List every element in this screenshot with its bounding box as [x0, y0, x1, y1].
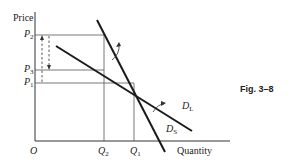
p1-sub: 1	[30, 81, 34, 89]
p1-label: P1	[24, 77, 34, 89]
y-axis-label: Price	[13, 13, 34, 23]
origin-label: O	[30, 146, 37, 156]
p2-label: P2	[24, 29, 34, 41]
curve-dl	[56, 46, 192, 131]
demand-diagram	[0, 0, 297, 166]
arrowhead-up-icon	[40, 35, 44, 40]
p2-sub: 2	[30, 33, 34, 41]
arrowhead-down-icon	[47, 65, 51, 70]
dl-label: DL	[182, 101, 194, 113]
q1-sub: 1	[137, 150, 141, 158]
arrowhead-icon	[161, 101, 166, 106]
arrowhead-icon	[116, 42, 121, 47]
figure-caption: Fig. 3–8	[240, 84, 274, 94]
q2-sub: 2	[105, 150, 109, 158]
p3-sub: 3	[30, 68, 34, 76]
curve-ds	[97, 20, 165, 152]
dl-sub: L	[189, 105, 193, 113]
q1-label: Q1	[130, 146, 141, 158]
x-axis-label: Quantity	[177, 146, 212, 156]
q2-label: Q2	[98, 146, 109, 158]
ds-label: DS	[166, 124, 177, 136]
ds-sub: S	[173, 128, 177, 136]
p3-label: P3	[24, 64, 34, 76]
